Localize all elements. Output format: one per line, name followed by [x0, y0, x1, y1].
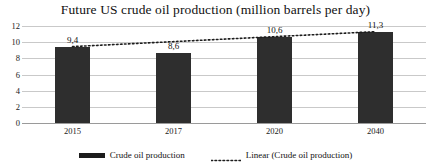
bar-2015: [55, 47, 90, 123]
legend-dotted-line-swatch-icon: [211, 154, 241, 157]
x-tick-label-2017: 2017: [149, 126, 199, 137]
trendline-path: [73, 32, 376, 47]
x-tick-label-2020: 2020: [250, 126, 300, 137]
legend-label-linear-trend: Linear (Crude oil production): [246, 150, 353, 161]
x-axis-tick-labels: 2015201720202040: [22, 126, 426, 140]
y-tick-label-12: 12: [0, 22, 20, 31]
y-axis-tick-labels: 024681012: [0, 26, 20, 123]
chart-title: Future US crude oil production (million …: [0, 1, 431, 18]
bar-2040: [358, 32, 393, 123]
legend-bar-swatch-icon: [79, 153, 105, 158]
gridline-0: [22, 123, 426, 124]
plot-area: 9,48,610,611,3: [22, 26, 426, 123]
y-tick-label-0: 0: [0, 119, 20, 128]
value-label-2040: 11,3: [356, 20, 396, 30]
chart-figure: Future US crude oil production (million …: [0, 0, 431, 168]
y-tick-label-6: 6: [0, 71, 20, 80]
y-tick-label-8: 8: [0, 54, 20, 63]
y-tick-label-10: 10: [0, 38, 20, 47]
value-label-2017: 8,6: [154, 41, 194, 51]
value-label-2015: 9,4: [53, 35, 93, 45]
x-tick-label-2015: 2015: [48, 126, 98, 137]
legend-entry-linear-trend: Linear (Crude oil production): [211, 150, 353, 161]
legend-entry-crude-oil-production: Crude oil production: [79, 150, 185, 161]
x-tick-label-2040: 2040: [351, 126, 401, 137]
bar-2017: [156, 53, 191, 123]
y-tick-label-2: 2: [0, 103, 20, 112]
legend-label-crude-oil-production: Crude oil production: [110, 150, 185, 161]
y-tick-label-4: 4: [0, 87, 20, 96]
bar-2020: [257, 37, 292, 123]
value-label-2020: 10,6: [255, 25, 295, 35]
chart-legend: Crude oil production Linear (Crude oil p…: [0, 147, 431, 163]
